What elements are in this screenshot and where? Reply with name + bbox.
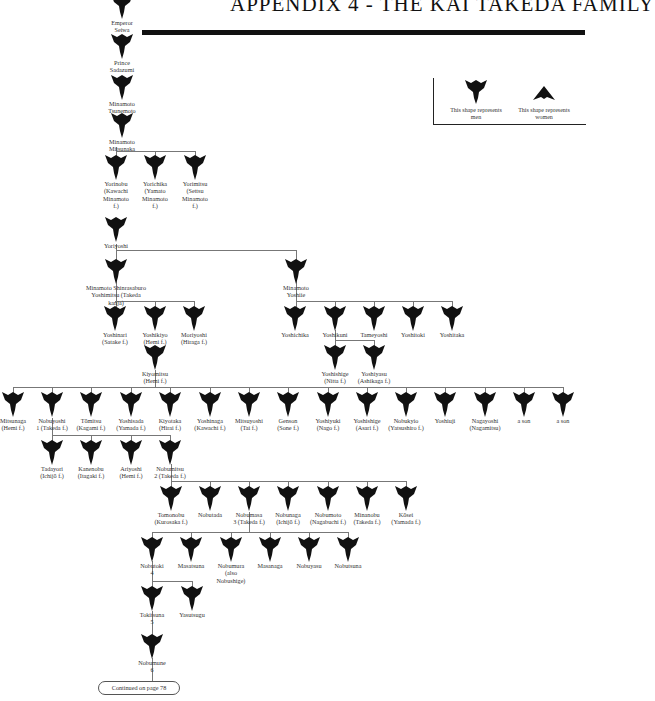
men-shape-icon	[80, 440, 102, 465]
men-shape-icon	[159, 392, 181, 417]
men-shape-icon	[474, 392, 496, 417]
person-name: Prince Sadazumi	[92, 59, 152, 74]
men-shape-icon	[277, 486, 299, 511]
men-shape-icon	[434, 392, 456, 417]
men-shape-icon	[120, 440, 142, 465]
men-shape-icon	[395, 486, 417, 511]
person-moriyoshi: Moriyoshi (Hiraga f.)	[164, 306, 224, 346]
men-shape-icon	[441, 306, 463, 331]
men-shape-icon	[111, 0, 133, 19]
person-ason2: a son	[533, 392, 593, 424]
men-shape-icon	[105, 217, 127, 242]
person-yoshimitsu: Minamoto Shinrasaburo Yoshimitsu (Takeda…	[86, 259, 146, 306]
men-shape-icon	[285, 259, 307, 284]
person-kosei: Kōsei (Yamada f.)	[376, 486, 436, 526]
women-shape-icon	[533, 80, 555, 104]
men-shape-icon	[180, 537, 202, 562]
person-name: Minamoto Mitsunaka	[92, 138, 152, 153]
men-shape-icon	[141, 586, 163, 611]
men-shape-icon	[298, 537, 320, 562]
person-name: Yasutsugu	[162, 611, 222, 618]
person-name: Yorimitsu (Settsu Minamoto f.)	[165, 180, 225, 210]
men-shape-icon	[159, 440, 181, 465]
person-name: Yoshitaka	[422, 331, 482, 338]
person-nobumune: Nobumune 6	[122, 634, 182, 674]
men-shape-icon	[181, 586, 203, 611]
men-shape-icon	[337, 537, 359, 562]
person-name: Minamoto Shinrasaburo Yoshimitsu (Takeda…	[86, 284, 146, 306]
person-yorimitsu: Yorimitsu (Settsu Minamoto f.)	[165, 155, 225, 210]
men-shape-icon	[105, 155, 127, 180]
men-shape-icon	[356, 392, 378, 417]
person-tsunemoto: Minamoto Tsunemoto	[92, 75, 152, 115]
person-name: Yoshiyasu (Ashikaga f.)	[344, 370, 404, 385]
men-shape-icon	[2, 392, 24, 417]
men-shape-icon	[104, 306, 126, 331]
person-nobutsuna: Nobutsuna	[318, 537, 378, 569]
men-shape-icon	[184, 155, 206, 180]
men-shape-icon	[324, 306, 346, 331]
person-name: Minamoto Yoshiie	[266, 284, 326, 299]
person-name: Kiyomitsu (Hemi f.)	[125, 370, 185, 385]
men-shape-icon	[324, 345, 346, 370]
men-shape-icon	[363, 345, 385, 370]
men-shape-icon	[183, 306, 205, 331]
men-shape-icon	[41, 392, 63, 417]
person-name: Yoriyoshi	[86, 242, 146, 249]
person-mitsunaka: Minamoto Mitsunaka	[92, 113, 152, 153]
men-shape-icon	[141, 537, 163, 562]
men-shape-icon	[199, 392, 221, 417]
person-yasutsugu: Yasutsugu	[162, 586, 222, 618]
page-title: APPENDIX 4 - THE KAI TAKEDA FAMILY	[230, 0, 655, 17]
person-kiyomitsu: Kiyomitsu (Hemi f.)	[125, 345, 185, 385]
men-shape-icon	[144, 155, 166, 180]
person-name: Nobumune 6	[122, 659, 182, 674]
men-shape-icon	[238, 392, 260, 417]
legend-women: This shape represents women	[514, 78, 574, 121]
person-sadazumi: Prince Sadazumi	[92, 34, 152, 74]
person-name: Kōsei (Yamada f.)	[376, 511, 436, 526]
person-name: Nobutsuna	[318, 562, 378, 569]
men-shape-icon	[144, 345, 166, 370]
men-shape-icon	[259, 537, 281, 562]
men-shape-icon	[41, 440, 63, 465]
men-shape-icon	[111, 34, 133, 59]
men-shape-icon	[199, 486, 221, 511]
men-shape-icon	[111, 75, 133, 100]
men-shape-icon	[277, 392, 299, 417]
legend-men: This shape represents men	[446, 78, 506, 121]
men-shape-icon	[402, 306, 424, 331]
men-shape-icon	[284, 306, 306, 331]
men-shape-icon	[238, 486, 260, 511]
men-shape-icon	[363, 306, 385, 331]
person-yoriyoshi: Yoriyoshi	[86, 217, 146, 249]
person-yoshiie: Minamoto Yoshiie	[266, 259, 326, 299]
title-rule	[142, 30, 585, 35]
person-name: a son	[533, 417, 593, 424]
men-shape-icon	[317, 392, 339, 417]
men-shape-icon	[144, 306, 166, 331]
person-sewa: Emperor Seiwa	[92, 0, 152, 34]
men-shape-icon	[111, 113, 133, 138]
men-shape-icon	[513, 392, 535, 417]
continued-note[interactable]: Continued on page 78	[98, 681, 180, 695]
person-yoshitaka: Yoshitaka	[422, 306, 482, 338]
men-shape-icon	[552, 392, 574, 417]
men-shape-icon	[356, 486, 378, 511]
legend: This shape represents men This shape rep…	[433, 78, 586, 125]
person-name: Nobumitsu 2 (Takeda f.)	[140, 465, 200, 480]
men-shape-icon	[465, 80, 487, 104]
men-shape-icon	[160, 486, 182, 511]
men-shape-icon	[105, 259, 127, 284]
person-nobumitsu: Nobumitsu 2 (Takeda f.)	[140, 440, 200, 480]
person-name: Emperor Seiwa	[92, 19, 152, 34]
men-shape-icon	[220, 537, 242, 562]
person-yoshiyasu: Yoshiyasu (Ashikaga f.)	[344, 345, 404, 385]
men-shape-icon	[395, 392, 417, 417]
men-shape-icon	[120, 392, 142, 417]
men-shape-icon	[317, 486, 339, 511]
men-shape-icon	[141, 634, 163, 659]
men-shape-icon	[80, 392, 102, 417]
person-name: Moriyoshi (Hiraga f.)	[164, 331, 224, 346]
